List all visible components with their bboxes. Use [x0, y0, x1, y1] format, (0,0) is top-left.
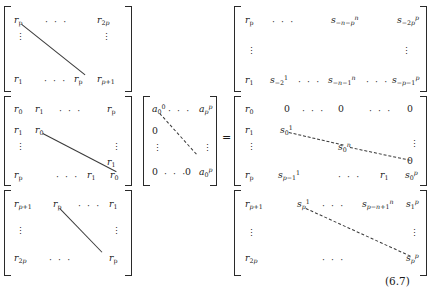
- matrix-cell: rp: [109, 253, 117, 262]
- matrix-cell: r0: [245, 104, 253, 113]
- ellipsis-vertical: ⋮: [247, 228, 256, 237]
- ellipsis-horizontal: · · ·: [78, 201, 101, 210]
- matrix-cell: rp+1: [14, 199, 32, 208]
- ellipsis-vertical: ⋮: [16, 32, 25, 41]
- ellipsis-horizontal: · · ·: [164, 169, 187, 178]
- ellipsis-horizontal: · · ·: [366, 77, 389, 86]
- ellipsis-horizontal: · · ·: [322, 201, 345, 210]
- ellipsis-horizontal: · · ·: [168, 106, 191, 115]
- ellipsis-horizontal: · · ·: [44, 76, 67, 85]
- matrix-cell: rp: [245, 170, 253, 179]
- matrix-cell: sp1: [297, 199, 310, 208]
- matrix-cell: a0p: [199, 167, 213, 176]
- ellipsis-horizontal: · · ·: [49, 255, 72, 264]
- ellipsis-horizontal: · · ·: [338, 172, 361, 181]
- ellipsis-vertical: ⋮: [112, 226, 121, 235]
- matrix-cell: r1: [35, 104, 43, 113]
- ellipsis-vertical: ⋮: [410, 228, 419, 237]
- matrix-cell: 0: [152, 126, 158, 135]
- matrix-cell: 0: [152, 167, 158, 176]
- ellipsis-vertical: ⋮: [203, 143, 212, 152]
- matrix-cell: rp: [74, 74, 82, 83]
- rhs-s-block-bottom: rp+1 sp1 · · · sp−n+1n s1p ⋮ ⋮ r2p · · ·…: [234, 190, 427, 276]
- matrix-cell: app: [199, 104, 213, 113]
- matrix-cell: r1: [14, 74, 22, 83]
- matrix-cell: 0: [338, 104, 344, 113]
- matrix-cell: r1: [109, 199, 117, 208]
- ellipsis-vertical: ⋮: [247, 46, 256, 55]
- ellipsis-horizontal: · · ·: [302, 106, 325, 115]
- lhs-r-block-top: rp · · · r2p ⋮ ⋮ r1 · · · rp rp+1: [4, 6, 132, 92]
- diagonal-line: [306, 208, 411, 257]
- ellipsis-horizontal: · · ·: [369, 106, 392, 115]
- matrix-cell: s−n−1n: [328, 75, 355, 84]
- matrix-equation: rp · · · r2p ⋮ ⋮ r1 · · · rp rp+1 r0 r1 …: [0, 0, 431, 295]
- matrix-cell: s0p: [405, 170, 418, 179]
- ellipsis-vertical: ⋮: [16, 142, 25, 151]
- matrix-cell: sp−11: [278, 170, 300, 179]
- matrix-cell: s−2pp: [397, 15, 419, 24]
- ellipsis-vertical: ⋮: [112, 142, 121, 151]
- matrix-cell: sp−n+1n: [362, 199, 394, 208]
- matrix-cell: a00: [152, 104, 166, 113]
- ellipsis-horizontal: · · ·: [59, 106, 82, 115]
- ellipsis-horizontal: · · ·: [322, 255, 345, 264]
- ellipsis-horizontal: · · ·: [56, 172, 79, 181]
- matrix-cell: r1: [107, 157, 115, 166]
- diagonal-line: [159, 113, 197, 155]
- diagonal-line: [350, 147, 411, 161]
- matrix-cell: 0: [407, 104, 413, 113]
- diagonal-line: [21, 24, 85, 75]
- diagonal-line: [59, 208, 102, 252]
- ellipsis-vertical: ⋮: [16, 226, 25, 235]
- matrix-cell: rp: [107, 104, 115, 113]
- matrix-cell: r2p: [14, 253, 27, 262]
- matrix-cell: r2p: [245, 253, 258, 262]
- lhs-r-block-bottom: rp+1 rp · · · r1 ⋮ ⋮ r2p · · · rp: [4, 190, 132, 276]
- ellipsis-horizontal: · · ·: [45, 17, 68, 26]
- ellipsis-vertical: ⋮: [102, 32, 111, 41]
- matrix-cell: rp+1: [245, 199, 263, 208]
- matrix-cell: r2p: [97, 15, 110, 24]
- matrix-cell: r1: [380, 170, 388, 179]
- matrix-cell: r0: [14, 104, 22, 113]
- matrix-cell: rp+1: [97, 74, 115, 83]
- ellipsis-vertical: ⋮: [247, 142, 256, 151]
- rhs-s-block-top: rp · · · s−n−pn s−2pp ⋮ ⋮ r1 s−21 · · · …: [234, 6, 427, 92]
- matrix-cell: s−21: [270, 75, 288, 84]
- equals-sign: =: [222, 131, 231, 144]
- rhs-s-block-middle: r0 0 · · · 0 · · · 0 r1 s01 ⋮ s0n ⋮ 0 rp…: [234, 96, 427, 186]
- diagonal-line: [43, 133, 117, 172]
- matrix-cell: r1: [14, 125, 22, 134]
- ellipsis-vertical: ⋮: [410, 139, 419, 148]
- matrix-cell: r1: [245, 125, 253, 134]
- ellipsis-horizontal: · · ·: [272, 17, 295, 26]
- diagonal-line: [289, 132, 344, 146]
- matrix-cell: s−n−pn: [331, 15, 359, 24]
- matrix-cell: s−p−1p: [392, 75, 419, 84]
- equation-number: (6.7): [385, 275, 410, 287]
- ellipsis-horizontal: · · ·: [298, 77, 321, 86]
- matrix-cell: r1: [245, 75, 253, 84]
- a-coefficient-matrix: a00 · · · app 0 ⋮ ⋮ 0 · · · 0 a0p: [143, 96, 217, 186]
- lhs-r-block-middle: r0 r1 · · · rp r1 r0 ⋮ ⋮ r1 rp · · · r1 …: [4, 96, 132, 186]
- matrix-cell: rp: [14, 170, 22, 179]
- ellipsis-vertical: ⋮: [153, 143, 162, 152]
- matrix-cell: 0: [284, 104, 290, 113]
- matrix-cell: s1p: [406, 199, 419, 208]
- matrix-cell: rp: [245, 15, 253, 24]
- ellipsis-vertical: ⋮: [402, 46, 411, 55]
- matrix-cell: 0: [185, 167, 191, 176]
- matrix-cell: r1: [87, 170, 95, 179]
- matrix-cell: rp: [53, 199, 61, 208]
